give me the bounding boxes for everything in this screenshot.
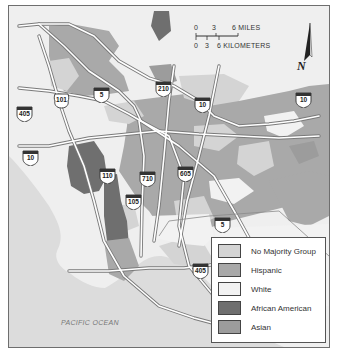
shield-i105: 105 bbox=[125, 194, 142, 210]
legend-label: No Majority Group bbox=[251, 247, 316, 256]
scale-miles-6: 6 MILES bbox=[232, 24, 260, 31]
legend-swatch bbox=[218, 320, 241, 334]
scale-bar-line bbox=[194, 33, 244, 41]
map-legend: No Majority Group Hispanic White African… bbox=[211, 237, 326, 343]
legend-swatch bbox=[218, 244, 241, 258]
legend-item-hispanic: Hispanic bbox=[218, 262, 282, 278]
legend-label: African American bbox=[251, 304, 311, 313]
scale-km-3: 3 bbox=[205, 42, 209, 49]
scale-miles-3: 3 bbox=[212, 24, 216, 31]
scale-km-6: 6 KILOMETERS bbox=[217, 42, 270, 49]
shield-i10-west: 10 bbox=[22, 150, 39, 166]
shield-us101: 101 bbox=[53, 93, 70, 109]
shield-i10-east: 10 bbox=[295, 92, 312, 108]
shield-i405-north: 405 bbox=[16, 106, 33, 122]
shield-i5-north: 5 bbox=[93, 87, 110, 103]
legend-swatch bbox=[218, 263, 241, 277]
legend-swatch bbox=[218, 301, 241, 315]
legend-item-no-majority: No Majority Group bbox=[218, 243, 316, 259]
shield-i5-south: 5 bbox=[214, 217, 231, 233]
scale-km-0: 0 bbox=[194, 42, 198, 49]
legend-item-african-american: African American bbox=[218, 300, 311, 316]
scale-miles-0: 0 bbox=[194, 24, 198, 31]
north-label: N bbox=[297, 59, 306, 74]
legend-swatch bbox=[218, 282, 241, 296]
shield-i405-south: 405 bbox=[192, 263, 209, 279]
shield-i110: 110 bbox=[99, 168, 116, 184]
shield-i10-central: 10 bbox=[194, 97, 211, 113]
legend-label: Hispanic bbox=[251, 266, 282, 275]
pacific-ocean-label: PACIFIC OCEAN bbox=[61, 319, 119, 326]
shield-i605: 605 bbox=[177, 166, 194, 182]
legend-label: White bbox=[251, 285, 271, 294]
legend-label: Asian bbox=[251, 323, 271, 332]
legend-item-white: White bbox=[218, 281, 271, 297]
shield-i210: 210 bbox=[155, 81, 172, 97]
scale-bar: 0 3 6 MILES 0 3 6 KILOMETERS bbox=[194, 24, 284, 54]
shield-i710: 710 bbox=[139, 171, 156, 187]
legend-item-asian: Asian bbox=[218, 319, 271, 335]
